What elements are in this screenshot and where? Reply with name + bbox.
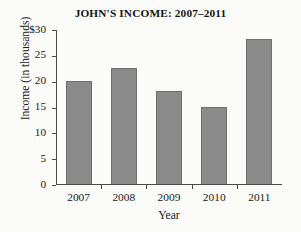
bar-chart-figure: JOHN'S INCOME: 2007–2011 Income (in thou… bbox=[0, 0, 301, 232]
y-axis-tick: 0 bbox=[52, 185, 56, 186]
y-axis-tick-label: 15 bbox=[35, 100, 46, 112]
bar-2010 bbox=[201, 107, 227, 185]
bar-2008 bbox=[111, 68, 137, 184]
x-axis-line bbox=[56, 184, 282, 185]
y-axis-tick: 10 bbox=[52, 133, 56, 134]
y-axis-tick: 15 bbox=[52, 108, 56, 109]
plot-area: 0510152025$30 bbox=[56, 30, 282, 185]
x-axis-tick bbox=[101, 185, 102, 189]
x-axis-tick-label-2011: 2011 bbox=[239, 191, 279, 203]
y-axis-tick-label: $30 bbox=[29, 23, 46, 35]
x-axis-tick-label-2009: 2009 bbox=[149, 191, 189, 203]
bar-2011 bbox=[246, 39, 272, 184]
y-axis-tick: 25 bbox=[52, 56, 56, 57]
x-axis-label: Year bbox=[56, 209, 282, 222]
y-axis-line bbox=[56, 30, 57, 185]
y-axis-tick: 20 bbox=[52, 82, 56, 83]
y-axis-tick: $30 bbox=[52, 30, 56, 31]
x-axis-tick bbox=[146, 185, 147, 189]
y-axis-tick-label: 10 bbox=[35, 126, 46, 138]
y-axis-tick-label: 20 bbox=[35, 74, 46, 86]
x-axis-tick-label-2010: 2010 bbox=[194, 191, 234, 203]
chart-title: JOHN'S INCOME: 2007–2011 bbox=[0, 7, 301, 19]
x-axis-tick bbox=[237, 185, 238, 189]
y-axis-tick-label: 5 bbox=[40, 152, 46, 164]
y-axis-tick-label: 0 bbox=[40, 178, 46, 190]
y-axis-label: Income (in thousands) bbox=[19, 0, 32, 139]
x-axis-tick bbox=[192, 185, 193, 189]
y-axis-tick-label: 25 bbox=[35, 48, 46, 60]
x-axis-tick-label-2007: 2007 bbox=[59, 191, 99, 203]
x-axis-tick-label-2008: 2008 bbox=[104, 191, 144, 203]
bar-2009 bbox=[156, 91, 182, 184]
bar-2007 bbox=[66, 81, 92, 184]
y-axis-tick: 5 bbox=[52, 159, 56, 160]
